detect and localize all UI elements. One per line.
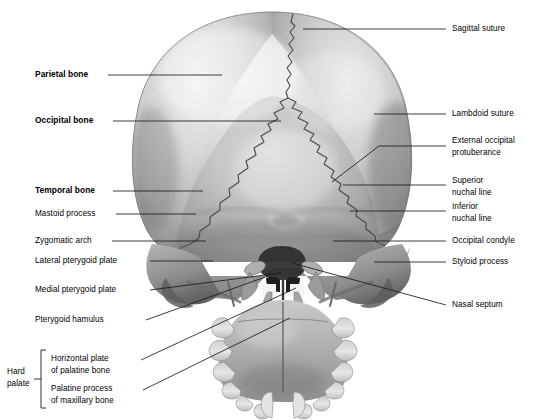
eop-shadow <box>272 216 300 228</box>
label-lateral-pterygoid-plate[interactable]: Lateral pterygoid plate <box>35 256 117 266</box>
label-medial-pterygoid-plate[interactable]: Medial pterygoid plate <box>35 285 116 295</box>
vault-highlight-left <box>158 28 298 124</box>
palate-highlight <box>238 312 298 348</box>
label-superior-nuchal-line-line2[interactable]: nuchal line <box>452 188 492 198</box>
label-styloid-process[interactable]: Styloid process <box>452 257 508 267</box>
label-inferior-nuchal-line-line2[interactable]: nuchal line <box>452 214 492 224</box>
label-sagittal-suture[interactable]: Sagittal suture <box>452 24 505 34</box>
label-hard-palate-line2: palate <box>7 379 30 389</box>
label-horizontal-plate-line2[interactable]: of palatine bone <box>51 366 110 376</box>
label-parietal-bone[interactable]: Parietal bone <box>35 70 88 80</box>
label-zygomatic-arch[interactable]: Zygomatic arch <box>35 236 92 246</box>
label-horizontal-plate-line1[interactable]: Horizontal plate <box>51 354 109 364</box>
label-nasal-septum[interactable]: Nasal septum <box>452 300 503 310</box>
occipital-highlight <box>234 130 338 210</box>
label-mastoid-process[interactable]: Mastoid process <box>35 209 95 219</box>
vault-highlight-right <box>282 52 386 132</box>
label-temporal-bone[interactable]: Temporal bone <box>35 186 95 196</box>
vault-shadow-right <box>368 102 428 234</box>
label-occipital-bone[interactable]: Occipital bone <box>35 116 93 126</box>
label-inferior-nuchal-line-line1[interactable]: Inferior <box>452 202 478 212</box>
hard-palate-bracket <box>34 350 46 408</box>
label-palatine-process-line1[interactable]: Palatine process <box>51 384 112 394</box>
label-pterygoid-hamulus[interactable]: Pterygoid hamulus <box>35 315 104 325</box>
label-occipital-condyle[interactable]: Occipital condyle <box>452 236 515 246</box>
vault-shadow-left <box>126 108 178 232</box>
label-hard-palate-line1: Hard <box>7 367 25 377</box>
label-lambdoid-suture[interactable]: Lambdoid suture <box>452 109 514 119</box>
label-external-occipital-protuberance-line1[interactable]: External occipital <box>452 136 515 146</box>
label-external-occipital-protuberance-line2[interactable]: protuberance <box>452 148 501 158</box>
anatomy-figure: Parietal bone Occipital bone Temporal bo… <box>0 0 543 420</box>
label-palatine-process-line2[interactable]: of maxillary bone <box>51 396 114 406</box>
label-superior-nuchal-line-line1[interactable]: Superior <box>452 176 483 186</box>
